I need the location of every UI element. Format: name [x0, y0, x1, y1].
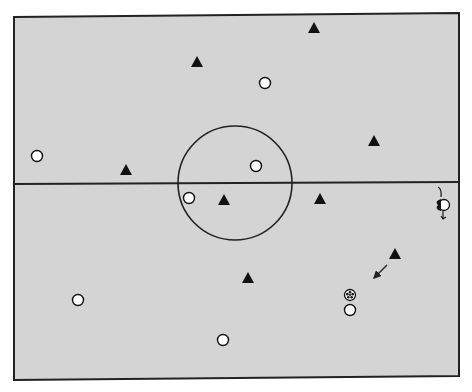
player-circle-icon	[251, 161, 262, 172]
player-circle-icon	[73, 295, 84, 306]
player-circle-icon	[32, 151, 43, 162]
player-circle-icon	[218, 335, 229, 346]
player-circle-icon	[345, 305, 356, 316]
player-circle-icon	[184, 193, 195, 204]
soccer-field	[0, 0, 472, 392]
ball-icon	[345, 290, 356, 301]
field-boundary	[14, 13, 459, 380]
tactics-diagram	[0, 0, 472, 392]
player-circle-icon	[260, 78, 271, 89]
